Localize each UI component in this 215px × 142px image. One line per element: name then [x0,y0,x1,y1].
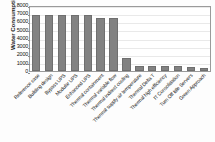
bar [45,15,53,70]
y-tick-label: 1000 [17,61,28,66]
bar [148,66,156,71]
bar-series [30,7,210,71]
y-tick-label: 5000 [17,28,28,33]
y-axis-tick-labels: 800070006000500040003000200010000 [8,0,28,76]
y-tick-label: 6000 [17,19,28,24]
plot-area [29,6,211,72]
bar [174,66,182,70]
y-tick-label: 4000 [17,36,28,41]
bar [187,67,195,70]
bar [109,18,117,71]
water-consumption-bar-chart: Water Consumption [m³] 80007000600050004… [0,0,215,142]
bar [135,66,143,71]
bar [200,68,208,71]
bar [84,15,92,70]
x-axis-tick-labels: Reference caseBuilding designBypass UPSM… [29,72,211,142]
bar [32,15,40,70]
bar [161,66,169,71]
y-tick-label: 3000 [17,44,28,49]
bar [122,58,130,70]
bar [58,15,66,70]
y-tick-label: 7000 [17,11,28,16]
bar [96,18,104,71]
x-label-slot: Green Approach [196,72,209,142]
y-tick-label: 2000 [17,52,28,57]
bar [71,15,79,70]
y-tick-label: 8000 [17,3,28,8]
